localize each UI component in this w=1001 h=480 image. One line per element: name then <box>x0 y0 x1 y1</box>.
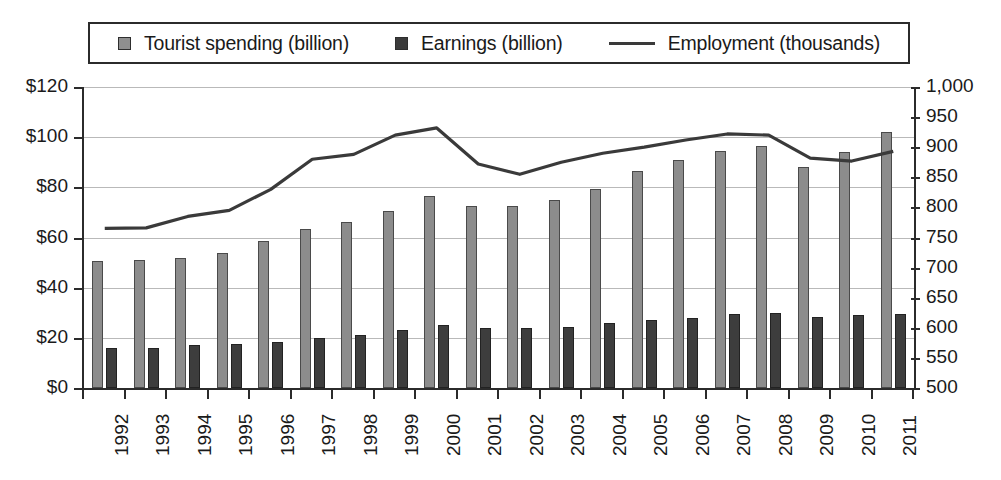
legend-label-earnings: Earnings (billion) <box>421 32 563 55</box>
left-axis-tickmark <box>74 238 83 240</box>
left-axis-tick-label: $0 <box>47 376 68 398</box>
x-axis-tick-label: 2002 <box>526 414 548 456</box>
x-axis-tick-label: 1998 <box>360 414 382 456</box>
x-axis-tickmark <box>82 388 84 399</box>
right-axis-tickmark <box>911 87 920 89</box>
left-axis-tick-label: $80 <box>36 175 68 197</box>
x-axis-tickmark <box>331 388 333 399</box>
legend-swatch-square-icon <box>118 37 131 50</box>
legend-item-earnings: Earnings (billion) <box>395 32 563 55</box>
x-axis-tick-label: 2003 <box>567 414 589 456</box>
x-axis-tickmark <box>497 388 499 399</box>
left-axis-tickmark <box>74 137 83 139</box>
right-axis-tickmark <box>911 238 920 240</box>
right-axis-tick-label: 950 <box>926 105 958 127</box>
right-axis-tick-label: 900 <box>926 135 958 157</box>
x-axis-tickmark <box>829 388 831 399</box>
plot-area <box>82 87 916 390</box>
x-axis-tick-label: 2010 <box>858 414 880 456</box>
right-axis-tick-label: 1,000 <box>926 75 974 97</box>
x-axis-tickmark <box>373 388 375 399</box>
x-axis-tickmark <box>414 388 416 399</box>
left-axis-tickmark <box>74 87 83 89</box>
right-axis-tick-label: 800 <box>926 195 958 217</box>
x-axis-tickmark <box>248 388 250 399</box>
x-axis-tick-label: 2006 <box>692 414 714 456</box>
employment-line <box>105 128 894 229</box>
left-axis-tick-label: $120 <box>26 75 68 97</box>
x-axis-tickmark <box>746 388 748 399</box>
right-axis-tick-label: 550 <box>926 346 958 368</box>
x-axis-tickmark <box>539 388 541 399</box>
right-axis-tickmark <box>911 177 920 179</box>
right-axis-tickmark <box>911 147 920 149</box>
left-axis-tickmark <box>74 288 83 290</box>
x-axis-tickmark <box>912 388 914 399</box>
legend-label-tourist-spending: Tourist spending (billion) <box>144 32 349 55</box>
x-axis-tickmark <box>580 388 582 399</box>
x-axis-tick-label: 2007 <box>733 414 755 456</box>
right-axis-tick-label: 600 <box>926 316 958 338</box>
legend-item-employment: Employment (thousands) <box>609 32 880 55</box>
right-axis-tick-label: 650 <box>926 286 958 308</box>
legend-swatch-square-icon <box>395 37 408 50</box>
x-axis-tickmark <box>456 388 458 399</box>
left-axis-tick-label: $20 <box>36 326 68 348</box>
chart-container: Tourist spending (billion) Earnings (bil… <box>0 0 1001 480</box>
x-axis-tick-label: 2008 <box>775 414 797 456</box>
x-axis-tick-label: 2001 <box>484 414 506 456</box>
chart-legend: Tourist spending (billion) Earnings (bil… <box>88 22 910 64</box>
legend-swatch-line-icon <box>609 42 655 45</box>
legend-label-employment: Employment (thousands) <box>668 32 880 55</box>
right-axis-tickmark <box>911 207 920 209</box>
right-axis-tickmark <box>911 328 920 330</box>
left-axis-tickmark <box>74 338 83 340</box>
x-axis-tickmark <box>207 388 209 399</box>
x-axis-tick-label: 1993 <box>152 414 174 456</box>
right-axis-tickmark <box>911 298 920 300</box>
right-axis-tickmark <box>911 117 920 119</box>
x-axis-tickmark <box>124 388 126 399</box>
x-axis-tick-label: 2011 <box>899 415 921 456</box>
employment-line-layer <box>84 87 914 388</box>
right-axis-tickmark <box>911 358 920 360</box>
x-axis-tickmark <box>705 388 707 399</box>
x-axis-tick-label: 2000 <box>443 414 465 456</box>
right-axis-tick-label: 850 <box>926 165 958 187</box>
x-axis-tick-label: 2004 <box>609 414 631 456</box>
x-axis-tick-label: 1992 <box>111 414 133 456</box>
x-axis-tick-label: 2009 <box>816 414 838 456</box>
x-axis-tickmark <box>663 388 665 399</box>
x-axis-tick-label: 1999 <box>401 414 423 456</box>
x-axis-tick-label: 2005 <box>650 414 672 456</box>
x-axis-tick-label: 1995 <box>235 414 257 456</box>
x-axis-tick-label: 1994 <box>194 414 216 456</box>
x-axis-tickmark <box>290 388 292 399</box>
x-axis-tickmark <box>165 388 167 399</box>
legend-item-tourist-spending: Tourist spending (billion) <box>118 32 349 55</box>
left-axis-tickmark <box>74 187 83 189</box>
right-axis-tickmark <box>911 268 920 270</box>
left-axis-tick-label: $60 <box>36 226 68 248</box>
x-axis-tickmark <box>788 388 790 399</box>
x-axis-tickmark <box>871 388 873 399</box>
right-axis-tick-label: 500 <box>926 376 958 398</box>
x-axis-tick-label: 1997 <box>318 414 340 456</box>
left-axis-tick-label: $100 <box>26 125 68 147</box>
left-axis-tick-label: $40 <box>36 276 68 298</box>
x-axis-tickmark <box>622 388 624 399</box>
right-axis-tick-label: 700 <box>926 256 958 278</box>
right-axis-tick-label: 750 <box>926 226 958 248</box>
x-axis-tick-label: 1996 <box>277 414 299 456</box>
